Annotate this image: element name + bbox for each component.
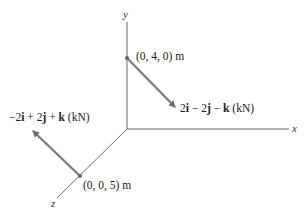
force-arrow-b [33, 131, 80, 176]
x-axis-label: x [291, 122, 297, 134]
z-axis-label: z [50, 197, 56, 209]
force-a-label: 2i − 2j − k (kN) [180, 102, 254, 115]
y-axis-label: y [122, 8, 128, 20]
point-b-label: (0, 0, 5) m [83, 179, 131, 192]
force-arrow-a [127, 58, 175, 107]
point-a-label: (0, 4, 0) m [136, 50, 184, 63]
point-a-dot [125, 56, 129, 60]
point-b-dot [78, 174, 82, 178]
force-b-label: −2i + 2j + k (kN) [9, 111, 90, 124]
force-diagram: y x z (0, 4, 0) m 2i − 2j − k (kN) (0, 0… [0, 0, 304, 212]
